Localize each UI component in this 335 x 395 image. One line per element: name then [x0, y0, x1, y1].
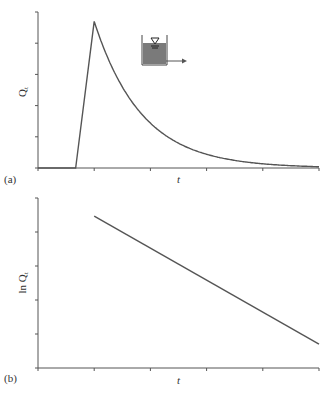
svg-text:Qt: Qt	[16, 87, 30, 97]
panel-b-x-label: t	[177, 374, 181, 386]
panel-b-log-recession-line	[94, 216, 319, 344]
panel-a-x-label: t	[177, 173, 181, 185]
panel-a-label: (a)	[4, 173, 17, 186]
panel-b-axes	[35, 198, 319, 371]
svg-text:ln Qt: ln Qt	[16, 272, 30, 293]
panel-a-chart: (a) t Qt	[4, 12, 319, 186]
panel-b-y-label: ln Qt	[16, 272, 30, 293]
reservoir-tank-icon	[142, 35, 187, 65]
figure: (a) t Qt (b) t ln Qt	[0, 0, 335, 395]
panel-b-chart: (b) t ln Qt	[4, 198, 319, 386]
panel-b-label: (b)	[4, 372, 17, 385]
panel-a-hydrograph-line	[38, 21, 319, 168]
panel-a-y-label: Qt	[16, 87, 30, 97]
